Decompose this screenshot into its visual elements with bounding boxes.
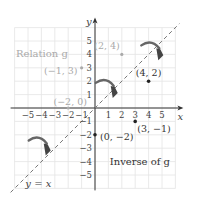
x-axis-label: x [177, 111, 183, 122]
y-axis-label: y [85, 16, 92, 27]
relation-point-label: (2, 4) [94, 40, 120, 51]
y-tick-label: −2 [79, 130, 92, 140]
relation-point-label: (−2, 0) [53, 96, 87, 107]
x-tick-label: −3 [49, 110, 62, 120]
inverse-point-label: (3, −1) [137, 123, 171, 134]
inverse-relation-diagram: xy−5−4−3−2−112345−5−4−3−2−112345y = xRel… [0, 0, 205, 198]
y-tick-label: 4 [87, 49, 92, 59]
inverse-g-label: Inverse of g [110, 156, 171, 167]
x-tick-label: 5 [159, 110, 164, 120]
x-tick-label: 1 [106, 110, 111, 120]
x-tick-label: −4 [35, 110, 48, 120]
inverse-point-label: (4, 2) [136, 67, 162, 78]
y-tick-label: 5 [87, 36, 92, 46]
reflection-arrow-lower-icon [29, 138, 51, 156]
reflection-arrow-upper-icon [141, 42, 163, 60]
x-tick-label: 4 [146, 110, 151, 120]
reflection-arrows [29, 42, 164, 155]
reflection-arrow-middle-icon [96, 80, 118, 98]
y-tick-label: −5 [79, 170, 92, 180]
x-tick-label: 2 [119, 110, 124, 120]
y-tick-label: −4 [79, 157, 92, 167]
y-tick-label: −1 [79, 116, 92, 126]
relation-point [80, 66, 83, 69]
inverse-point [93, 133, 97, 137]
x-tick-label: −2 [62, 110, 75, 120]
inverse-point-label: (0, −2) [100, 131, 134, 142]
x-tick-label: 3 [132, 110, 137, 120]
x-tick-label: −5 [22, 110, 35, 120]
y-tick-label: 3 [87, 63, 92, 73]
relation-point [120, 53, 123, 56]
y-tick-label: −3 [79, 143, 92, 153]
y-tick-label: 2 [87, 76, 92, 86]
inverse-point [147, 79, 151, 83]
line-label: y = x [24, 178, 51, 189]
y-tick-label: 1 [87, 90, 92, 100]
relation-point-label: (−1, 3) [44, 65, 78, 76]
relation-g-label: Relation g [16, 48, 68, 59]
